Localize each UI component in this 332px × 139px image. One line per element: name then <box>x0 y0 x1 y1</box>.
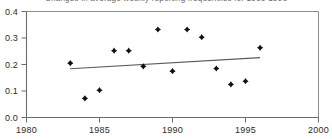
data-point <box>96 87 102 93</box>
data-point <box>82 95 88 101</box>
data-point <box>111 48 117 54</box>
data-point <box>213 65 219 71</box>
x-axis <box>27 118 319 123</box>
data-point <box>228 81 234 87</box>
data-point <box>257 45 263 51</box>
y-tick-label-0.0: 0.0 <box>5 113 18 123</box>
x-tick-label-1985: 1985 <box>89 125 110 135</box>
y-tick-label-0.4: 0.4 <box>5 7 18 17</box>
x-tick-label-2000: 2000 <box>308 125 329 135</box>
chart-figure: Changes in average weekly reporting freq… <box>0 0 332 139</box>
trend-line-group <box>70 58 260 69</box>
x-tick-label-1990: 1990 <box>162 125 183 135</box>
data-points-group <box>67 26 263 101</box>
data-point <box>155 26 161 32</box>
x-tick-label-1980: 1980 <box>16 125 37 135</box>
data-point <box>169 68 175 74</box>
y-tick-label-0.1: 0.1 <box>5 86 18 96</box>
data-point <box>242 78 248 84</box>
data-point <box>199 34 205 40</box>
x-tick-label-1995: 1995 <box>235 125 256 135</box>
data-point <box>126 48 132 54</box>
data-point <box>67 60 73 66</box>
y-tick-label-0.2: 0.2 <box>5 60 18 70</box>
y-axis <box>22 12 27 118</box>
trend-line <box>70 58 260 69</box>
scatter-plot: 0.4 0.3 0.2 0.1 0.0 1980 1985 1990 1995 … <box>0 0 332 139</box>
data-point <box>184 26 190 32</box>
y-tick-label-0.3: 0.3 <box>5 33 18 43</box>
